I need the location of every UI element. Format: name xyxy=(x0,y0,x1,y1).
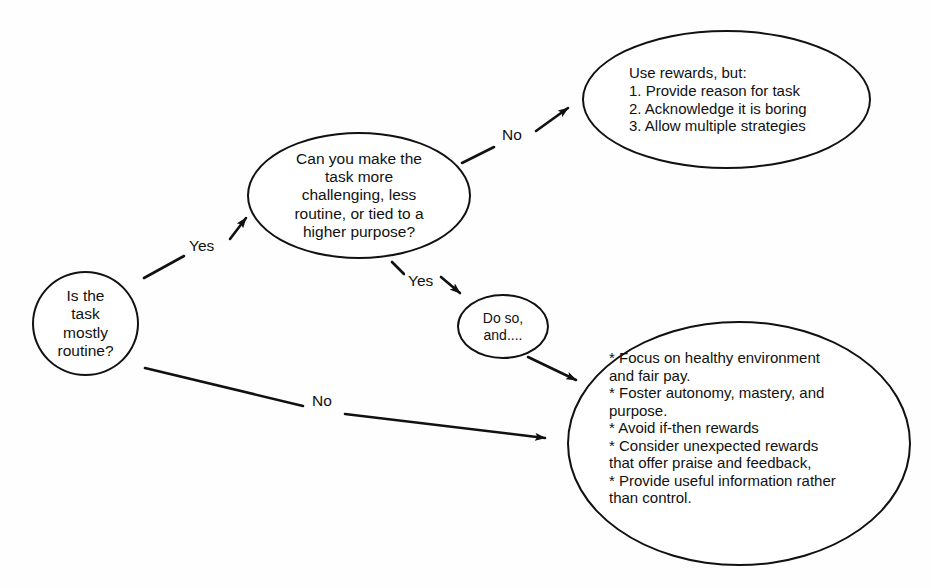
node-can-you-make-task-challenging[interactable]: Can you make the task more challenging, … xyxy=(247,132,471,259)
node-question-label: Can you make the task more challenging, … xyxy=(270,150,448,241)
edge-start-to-practices xyxy=(145,368,545,438)
edge-label-yes-to-question: Yes xyxy=(186,237,217,255)
node-is-task-routine[interactable]: Is the task mostly routine? xyxy=(32,271,139,376)
edge-doso-to-practices xyxy=(528,357,576,380)
node-do-so-and[interactable]: Do so, and.... xyxy=(457,294,549,359)
node-motivation-practices[interactable]: * Focus on healthy environment and fair … xyxy=(567,321,911,566)
edge-label-no-to-practices: No xyxy=(309,392,335,410)
node-use-rewards-but[interactable]: Use rewards, but: 1. Provide reason for … xyxy=(582,30,871,169)
node-practices-label: * Focus on healthy environment and fair … xyxy=(609,349,836,507)
edge-label-no-to-rewards: No xyxy=(499,126,525,144)
node-rewards-label: Use rewards, but: 1. Provide reason for … xyxy=(629,64,807,135)
edge-label-yes-to-doso: Yes xyxy=(405,272,436,290)
node-doso-label: Do so, and.... xyxy=(483,310,523,343)
node-start-label: Is the task mostly routine? xyxy=(57,287,113,360)
flowchart-canvas: Is the task mostly routine? Can you make… xyxy=(0,0,931,588)
